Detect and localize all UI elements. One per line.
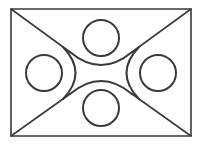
circle-right [140, 55, 176, 91]
arc-top [70, 52, 132, 65]
diagonal-bottom-right [132, 94, 191, 136]
diagonal-bottom-left [11, 94, 70, 136]
circle-top [83, 20, 119, 56]
center-arcs [63, 47, 139, 99]
geometric-diagram [0, 0, 202, 146]
arc-bottom [70, 81, 132, 94]
diagonal-top-left [11, 9, 70, 52]
diagonal-top-right [132, 9, 191, 52]
circle-bottom [83, 90, 119, 126]
diagonal-lines [11, 9, 191, 136]
circle-left [26, 55, 62, 91]
